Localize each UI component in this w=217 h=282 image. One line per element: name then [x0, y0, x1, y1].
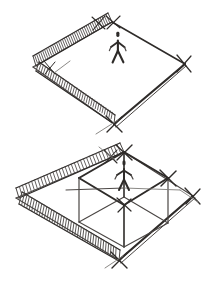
figure-head [116, 32, 119, 37]
sketch-canvas: Axonometric sketch pair Square platform … [0, 0, 217, 282]
axonometric-sketch-pair [0, 0, 217, 282]
figure-head [123, 161, 126, 166]
paper-background [0, 0, 217, 282]
